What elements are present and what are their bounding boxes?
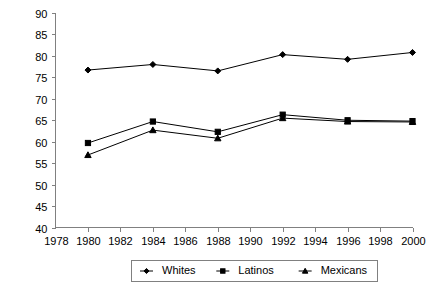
line-chart-figure: 4045505560657075808590 19781980198219841…: [0, 0, 436, 292]
y-tick-label-55: 55: [35, 158, 47, 170]
x-tick-label-1982: 1982: [108, 235, 132, 247]
x-tick-label-1990: 1990: [238, 235, 262, 247]
datapoint-latinos-1980: [85, 140, 90, 145]
x-tick-label-1998: 1998: [368, 235, 392, 247]
x-tick-label-1980: 1980: [76, 235, 100, 247]
legend-label-mexicans: Mexicans: [321, 264, 368, 276]
y-tick-label-90: 90: [35, 8, 47, 20]
legend-items: WhitesLatinosMexicans: [140, 264, 368, 276]
x-tick-label-1978: 1978: [44, 235, 68, 247]
y-tick-label-50: 50: [35, 180, 47, 192]
y-tick-label-75: 75: [35, 72, 47, 84]
x-tick-label-1994: 1994: [303, 235, 327, 247]
datapoint-latinos-1984: [150, 119, 155, 124]
y-tick-label-65: 65: [35, 115, 47, 127]
chart-legend: WhitesLatinosMexicans: [132, 261, 378, 282]
y-tick-label-70: 70: [35, 94, 47, 106]
x-tick-label-2000: 2000: [401, 235, 425, 247]
x-tick-label-1988: 1988: [206, 235, 230, 247]
legend-label-latinos: Latinos: [238, 264, 274, 276]
y-tick-label-85: 85: [35, 29, 47, 41]
y-tick-label-60: 60: [35, 137, 47, 149]
legend-label-whites: Whites: [162, 264, 196, 276]
x-tick-label-1986: 1986: [173, 235, 197, 247]
y-tick-label-40: 40: [35, 223, 47, 235]
datapoint-latinos-1988: [215, 129, 220, 134]
chart-canvas: 4045505560657075808590 19781980198219841…: [0, 0, 436, 292]
chart-background: [0, 0, 436, 292]
y-tick-label-45: 45: [35, 201, 47, 213]
x-tick-label-1996: 1996: [336, 235, 360, 247]
x-tick-label-1992: 1992: [271, 235, 295, 247]
x-tick-label-1984: 1984: [141, 235, 165, 247]
y-tick-label-80: 80: [35, 51, 47, 63]
legend-marker-latinos: [221, 269, 225, 273]
